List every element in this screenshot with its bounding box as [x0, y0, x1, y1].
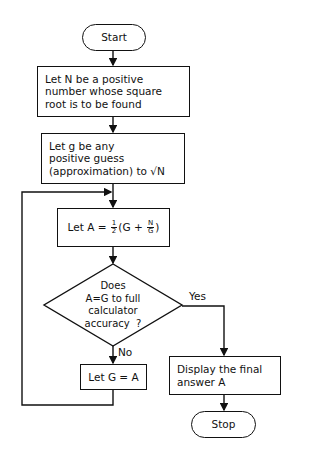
fraction-denominator: 2 — [112, 228, 116, 235]
step2-line: positive guess — [49, 152, 124, 165]
step2-line: Let g be any — [49, 140, 114, 153]
step-update-g: Let G = A — [80, 364, 147, 390]
fraction-half: 1 2 — [111, 220, 117, 235]
arrow-yes — [182, 306, 224, 355]
decision-text: Does A=G to full calculator accuracy ? — [63, 280, 163, 330]
no-label: No — [118, 346, 132, 358]
decision-line: Does — [63, 280, 163, 293]
update-label: Let G = A — [88, 371, 138, 384]
fraction-denominator: G — [148, 228, 153, 235]
step-initial-guess: Let g be any positive guess (approximati… — [41, 133, 185, 184]
step2-line: (approximation) to √N — [49, 165, 165, 178]
step-display-answer: Display the final answer A — [169, 356, 281, 395]
formula-close: ) — [155, 221, 159, 234]
stop-label: Stop — [212, 418, 236, 431]
fraction-n-over-g: N G — [147, 220, 154, 235]
display-line: answer A — [177, 376, 225, 389]
step1-line: number whose square — [45, 85, 162, 98]
start-label: Start — [101, 31, 127, 44]
stop-terminal: Stop — [191, 411, 256, 438]
formula-open: (G + — [118, 221, 146, 234]
step1-line: Let N be a positive — [45, 73, 143, 86]
start-terminal: Start — [82, 24, 146, 51]
decision-line: accuracy ? — [63, 318, 163, 331]
decision-line: A=G to full — [63, 293, 163, 306]
decision-line: calculator — [63, 305, 163, 318]
step1-line: root is to be found — [45, 98, 142, 111]
yes-label: Yes — [189, 290, 206, 302]
formula-prefix: Let A = — [68, 221, 110, 234]
step-define-n: Let N be a positive number whose square … — [37, 66, 190, 117]
step-compute-a: Let A = 1 2 (G + N G ) — [57, 208, 170, 247]
display-line: Display the final — [177, 363, 262, 376]
